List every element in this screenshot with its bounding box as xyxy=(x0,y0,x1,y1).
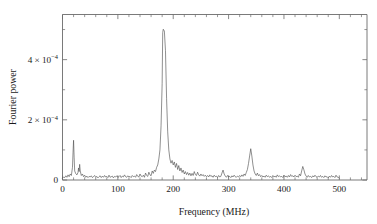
x-axis-tick-labels: 0100200300400500 xyxy=(60,184,346,194)
x-tick-label: 200 xyxy=(166,184,180,194)
x-tick-label: 0 xyxy=(60,184,65,194)
y-axis-tick-labels: 02 × 10−44 × 10−4 xyxy=(28,53,59,185)
top-axis-ticks xyxy=(63,15,362,20)
y-axis-title: Fourier power xyxy=(7,68,18,125)
y-tick-label: 2 × 10−4 xyxy=(28,114,59,126)
x-axis-title: Frequency (MHz) xyxy=(179,206,249,218)
y-tick-label: 4 × 10−4 xyxy=(28,53,59,65)
data-series-fourier-power xyxy=(63,29,340,178)
y-tick-label: 0 xyxy=(53,175,58,185)
fourier-power-spectrum-figure: 0100200300400500 02 × 10−44 × 10−4 ν12ν3… xyxy=(0,0,377,224)
chart-canvas: 0100200300400500 02 × 10−44 × 10−4 ν12ν3… xyxy=(0,0,377,224)
x-tick-label: 500 xyxy=(332,184,346,194)
x-tick-label: 300 xyxy=(222,184,236,194)
y-axis-major-ticks xyxy=(63,60,68,180)
x-tick-label: 100 xyxy=(111,184,125,194)
plot-frame xyxy=(63,15,368,181)
x-tick-label: 400 xyxy=(277,184,291,194)
right-axis-ticks xyxy=(362,30,367,180)
